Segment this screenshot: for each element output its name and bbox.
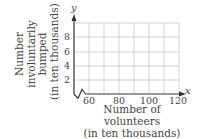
y-axis-title-line: bumped [37, 8, 49, 100]
y-axis-letter: y [71, 2, 77, 13]
y-axis-title-line: (in ten thousands) [49, 8, 61, 100]
x-axis-title-line: Number of volunteers [74, 103, 190, 127]
x-axis-title-line: (in ten thousands) [74, 127, 190, 139]
grid [74, 23, 179, 94]
chart-figure: y x 8 6 4 2 60 80 100 120 Number involun… [0, 0, 198, 139]
y-axis-title: Number involuntarily bumped (in ten thou… [8, 10, 66, 98]
y-axis-arrow-icon [72, 14, 77, 21]
y-axis-title-line: Number [14, 8, 26, 100]
x-axis-title: Number of volunteers (in ten thousands) [74, 103, 190, 139]
